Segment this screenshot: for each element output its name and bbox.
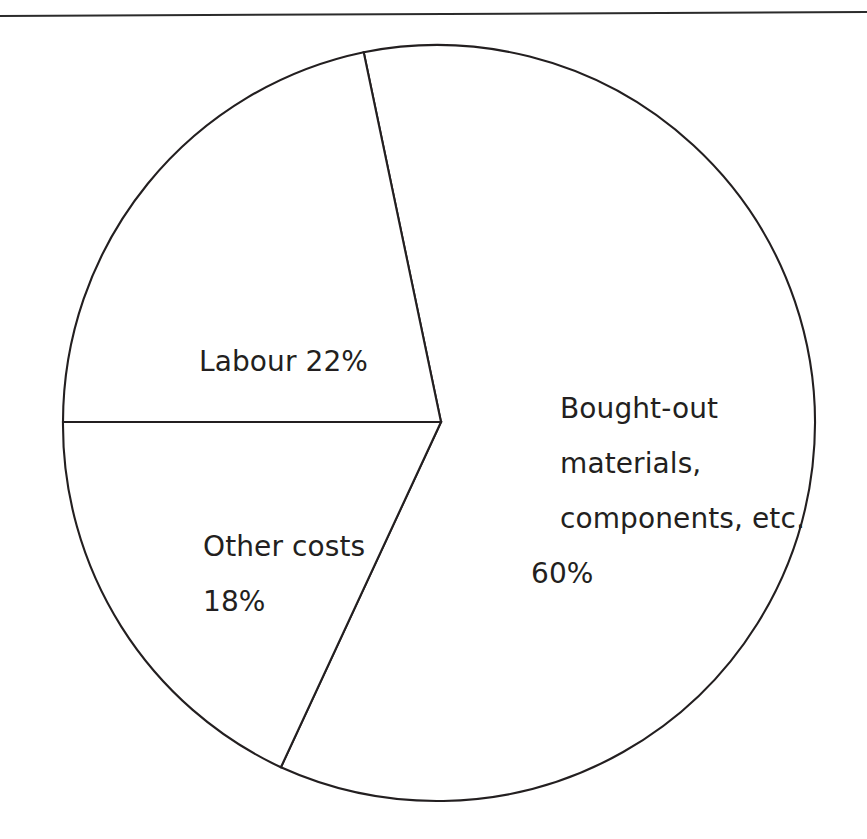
pie-label-bought-out-value: 60% [524, 560, 805, 588]
pie-label-other-costs-line1: Other costs [203, 530, 365, 563]
pie-label-other-costs: Other costs 18% [167, 505, 365, 643]
pie-label-labour: Labour 22% [163, 320, 368, 403]
pie-label-labour-text: Labour 22% [199, 345, 368, 378]
pie-label-bought-out: Bought-out materials, components, etc. 6… [524, 367, 805, 642]
pie-label-bought-out-line1: Bought-out [560, 392, 718, 425]
pie-label-bought-out-line3: components, etc. [560, 502, 805, 535]
pie-label-other-costs-value: 18% [203, 585, 266, 618]
pie-label-bought-out-line2: materials, [560, 447, 701, 480]
